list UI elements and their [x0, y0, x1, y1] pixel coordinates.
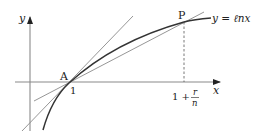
point-A-label: A — [59, 70, 69, 83]
tangent-line-at-A — [22, 16, 133, 131]
x-tick-prefix: 1 + — [172, 91, 190, 102]
y-axis-label: y — [18, 12, 26, 25]
ln-tangent-secant-diagram: y x A 1 P y = ℓnx 1 + r n — [0, 0, 259, 135]
x-axis-label: x — [213, 84, 220, 97]
point-P-label: P — [178, 9, 186, 22]
x-tick-denominator: n — [192, 98, 197, 108]
curve-equation-label: y = ℓnx — [211, 12, 251, 24]
secant-line-AP — [34, 12, 204, 101]
x-tick-one-label: 1 — [70, 85, 76, 96]
ln-curve — [43, 18, 211, 130]
x-tick-numerator: r — [193, 87, 198, 97]
